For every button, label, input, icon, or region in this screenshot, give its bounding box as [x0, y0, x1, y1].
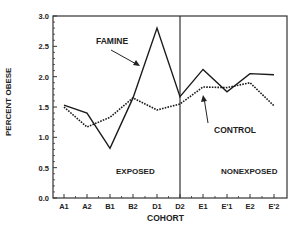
control-label: CONTROL [214, 125, 256, 135]
line-chart: 0.00.51.01.52.02.53.0 A1A2B1B2D1D2E1E'1E… [0, 0, 302, 230]
x-tick-label: E'2 [269, 202, 280, 211]
x-tick-label: A2 [82, 202, 92, 211]
x-tick-label: E1 [198, 202, 207, 211]
control-arrowhead-icon [201, 95, 207, 102]
x-tick-label: B2 [128, 202, 138, 211]
exposed-region-label: EXPOSED [116, 167, 155, 176]
famine-arrow-icon [111, 50, 138, 65]
x-tick-label: D1 [152, 202, 162, 211]
x-tick-label: E'1 [222, 202, 233, 211]
x-axis: A1A2B1B2D1D2E1E'1E2E'2 [59, 194, 279, 211]
x-tick-label: B1 [105, 202, 115, 211]
control-arrow-icon [204, 98, 208, 123]
y-tick-label: 0.5 [39, 164, 49, 173]
y-tick-label: 0.0 [39, 194, 49, 203]
famine-label: FAMINE [96, 36, 128, 46]
x-axis-title: COHORT [147, 213, 185, 223]
y-axis: 0.00.51.01.52.02.53.0 [39, 12, 57, 203]
y-tick-label: 2.5 [39, 42, 49, 51]
x-tick-label: A1 [59, 202, 69, 211]
y-tick-label: 1.5 [39, 103, 49, 112]
y-tick-label: 3.0 [39, 12, 49, 21]
nonexposed-region-label: NONEXPOSED [221, 167, 278, 176]
control-line [64, 83, 274, 127]
x-tick-label: D2 [175, 202, 185, 211]
x-tick-label: E2 [245, 202, 254, 211]
y-tick-label: 2.0 [39, 73, 49, 82]
y-tick-label: 1.0 [39, 133, 49, 142]
y-axis-title: PERCENT OBESE [4, 67, 13, 136]
